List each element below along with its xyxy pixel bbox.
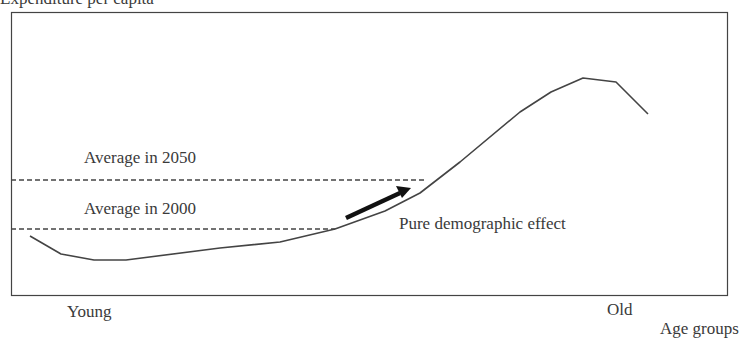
- x-tick-young: Young: [67, 302, 112, 322]
- chart-canvas: [0, 0, 754, 341]
- demographic-effect-label: Pure demographic effect: [399, 214, 566, 234]
- y-axis-label: Expenditure per capita: [0, 0, 154, 9]
- average-2000-label: Average in 2000: [84, 199, 196, 219]
- x-axis-label: Age groups: [660, 319, 739, 339]
- x-tick-old: Old: [607, 300, 633, 320]
- average-2050-label: Average in 2050: [84, 148, 196, 168]
